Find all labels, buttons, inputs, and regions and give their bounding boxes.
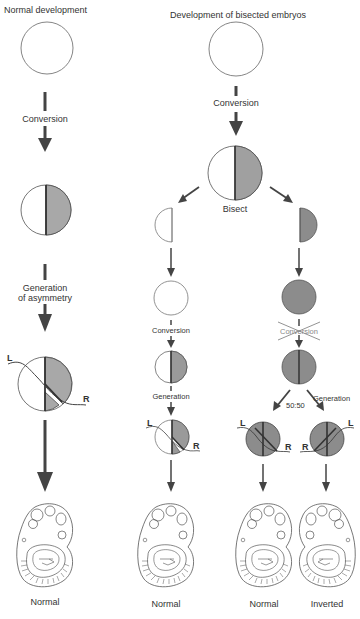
asymmetric-embryo bbox=[8, 357, 86, 411]
normal-development-column bbox=[8, 22, 86, 587]
shaded-half bbox=[300, 208, 317, 242]
label-bisect: Bisect bbox=[223, 204, 248, 214]
label-of-asymmetry-left: of asymmetry bbox=[18, 293, 72, 303]
label-conversion-left: Conversion bbox=[21, 114, 69, 124]
white-half bbox=[155, 208, 172, 242]
label-generation-left-branch: Generation bbox=[152, 392, 189, 402]
inverted-embryo bbox=[299, 504, 355, 587]
label-conversion-crossed: Conversion bbox=[280, 327, 318, 337]
marker-l-normal: L bbox=[240, 418, 246, 428]
label-conversion-top: Conversion bbox=[213, 98, 259, 108]
outcome-inverted: Inverted bbox=[311, 599, 344, 609]
label-generation-right-branch: Generation bbox=[313, 394, 350, 404]
regulated-white-egg bbox=[154, 281, 188, 315]
left-branch-asymmetric bbox=[146, 420, 200, 454]
bisected-uniform-egg bbox=[209, 22, 263, 76]
label-generation-left: Generation bbox=[23, 283, 68, 293]
normal-embryo-branch bbox=[138, 504, 194, 587]
regulated-shaded-egg bbox=[282, 280, 316, 314]
title-normal-development: Normal development bbox=[4, 5, 87, 15]
title-bisected-embryos: Development of bisected embryos bbox=[170, 10, 306, 20]
marker-l-left-branch: L bbox=[147, 418, 153, 428]
normal-embryo-right-branch bbox=[236, 504, 292, 587]
normal-embryo-left bbox=[17, 504, 73, 587]
converted-egg bbox=[21, 185, 71, 235]
bisected-embryo-diagram: Normal development Development of bisect… bbox=[0, 0, 360, 619]
label-ratio: 50:50 bbox=[286, 401, 305, 411]
marker-r-left: R bbox=[83, 394, 90, 404]
outcome-normal-right: Normal bbox=[249, 599, 278, 609]
outcome-normal-branch: Normal bbox=[151, 599, 180, 609]
marker-r-normal: R bbox=[285, 442, 292, 452]
marker-r-left-branch: R bbox=[193, 441, 200, 451]
right-branch-unconverted bbox=[282, 350, 316, 384]
uniform-egg bbox=[21, 22, 73, 74]
left-branch-converted bbox=[155, 351, 187, 383]
marker-l-inverted: L bbox=[348, 418, 354, 428]
outcome-normal-left: Normal bbox=[30, 597, 59, 607]
label-conversion-left-branch: Conversion bbox=[152, 326, 190, 336]
bisect-circle bbox=[208, 146, 262, 200]
marker-l-left: L bbox=[7, 353, 13, 363]
marker-r-inverted: R bbox=[302, 442, 309, 452]
